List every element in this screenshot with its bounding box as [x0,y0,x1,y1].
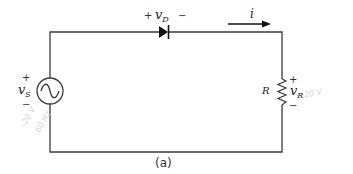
diode-icon [159,25,169,39]
wire-left-top [50,32,160,78]
figure-caption: (a) [155,157,172,169]
resistor-icon [278,79,286,105]
resistor-voltage-label: vR [290,84,303,97]
current-arrow-icon [228,21,271,28]
wire-right-bottom [50,104,282,152]
source-voltage-label: vS [18,83,31,96]
resistor-minus-sign: − [289,101,297,111]
ac-source-icon [37,78,63,104]
source-voltage-subscript: S [25,90,30,99]
current-label: i [250,8,254,20]
diode-voltage-subscript: D [162,15,168,24]
wire-top-right [169,32,282,79]
diode-plus-sign: + [144,11,152,21]
diode-minus-sign: − [178,11,186,21]
resistor-name-label: R [262,86,270,96]
diode-voltage-label: vD [155,8,169,21]
